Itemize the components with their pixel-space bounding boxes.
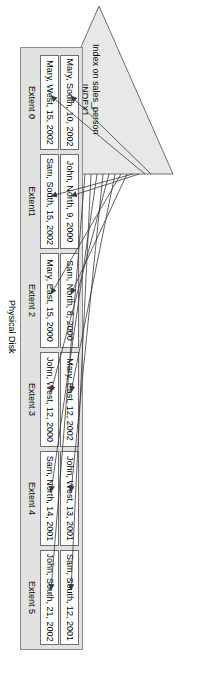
- rotated-diagram-group: Index on sales_person INDEX1 Mary, South…: [0, 0, 199, 681]
- connector-7: [71, 174, 115, 392]
- connector-11: [71, 174, 91, 590]
- connector-2: [51, 96, 145, 174]
- connector-5: [71, 174, 127, 294]
- connector-9: [71, 174, 103, 492]
- connector-4: [51, 174, 133, 196]
- connector-1: [71, 96, 151, 174]
- diagram-canvas: Index on sales_person INDEX1 Mary, South…: [0, 0, 199, 681]
- index-to-row-connectors: [0, 0, 199, 681]
- connector-10: [51, 174, 97, 492]
- connector-3: [71, 174, 139, 196]
- connector-8: [51, 174, 109, 392]
- connector-12: [51, 174, 85, 590]
